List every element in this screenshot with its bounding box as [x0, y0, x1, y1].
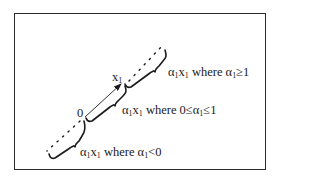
label-alpha-0-to-1: α1x1 where 0≤α1≤1 — [122, 103, 216, 117]
origin-label: 0 — [77, 106, 83, 120]
brace-alpha-0-to-1 — [86, 86, 126, 121]
cond-pre: 0≤ — [180, 103, 193, 117]
cond-rest: ≤1 — [203, 103, 216, 117]
where-text: where — [189, 65, 226, 79]
origin-text: 0 — [77, 106, 83, 120]
where-text: where — [101, 145, 138, 159]
where-text: where — [143, 103, 180, 117]
vector-tip-sub: 1 — [118, 76, 122, 85]
vector-tip-label: x1 — [112, 70, 122, 84]
label-alpha-ge-1: α1x1 where α1≥1 — [168, 65, 249, 79]
cond-rest: ≥1 — [236, 65, 249, 79]
cond-rest: <0 — [148, 145, 161, 159]
brace-alpha-ge-1 — [125, 50, 166, 87]
label-alpha-lt-0: α1x1 where α1<0 — [80, 145, 161, 159]
